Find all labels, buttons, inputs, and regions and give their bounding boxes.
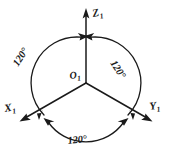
axis-x1-label-sub: 1 bbox=[12, 106, 17, 116]
arc-x-y-head-left bbox=[44, 118, 55, 126]
axes-diagram: Z1 X1 Y1 O1 120° 120° 120° bbox=[0, 0, 171, 153]
axis-z1-label-sub: 1 bbox=[99, 11, 104, 21]
axis-x1-label-group: X1 bbox=[2, 100, 17, 117]
axis-y1-label: Y1 bbox=[149, 99, 161, 115]
angle-label-z-y: 120° bbox=[108, 58, 128, 81]
origin-label-group: O1 bbox=[69, 69, 82, 84]
arc-angle-z-y bbox=[84, 33, 141, 120]
arc-x-y-head-right bbox=[118, 118, 129, 126]
angle-label-z-x: 120° bbox=[10, 45, 30, 68]
arc-z-y-path bbox=[91, 37, 141, 115]
axis-x1-label: X1 bbox=[2, 100, 17, 117]
axis-x1 bbox=[20, 83, 87, 122]
axis-x1-arrowhead bbox=[20, 113, 31, 121]
angle-label-z-y-group: 120° bbox=[108, 58, 128, 81]
angle-label-x-y-group: 120° bbox=[67, 133, 88, 146]
angle-label-x-y: 120° bbox=[67, 133, 88, 146]
origin-label: O1 bbox=[69, 69, 82, 84]
angle-label-z-x-group: 120° bbox=[10, 45, 30, 68]
axis-y1-label-sub: 1 bbox=[156, 105, 161, 114]
axis-y1-arrowhead bbox=[141, 113, 152, 121]
axis-z1-label-group: Z1 bbox=[90, 5, 104, 22]
axis-z1 bbox=[83, 8, 90, 83]
origin-label-sub: 1 bbox=[77, 74, 82, 83]
axis-z1-label: Z1 bbox=[90, 5, 104, 22]
axis-y1 bbox=[86, 83, 153, 122]
figure-canvas: Z1 X1 Y1 O1 120° 120° 120° bbox=[0, 0, 171, 153]
axis-y1-label-group: Y1 bbox=[149, 99, 161, 115]
